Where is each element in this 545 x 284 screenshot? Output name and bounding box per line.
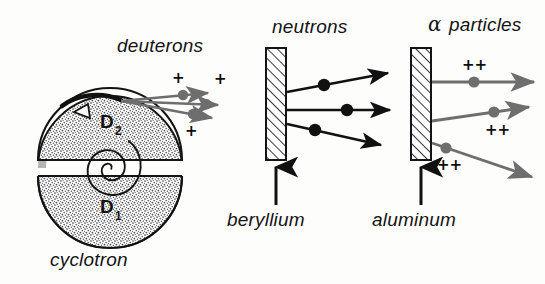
aluminum-label: aluminum (372, 209, 456, 230)
deuteron-beam-1 (121, 93, 208, 101)
dee-upper[interactable] (38, 96, 182, 168)
cyclotron-assembly: D 2 D 1 cyclotron (38, 88, 182, 270)
neutron-beam-3 (287, 124, 381, 145)
neutron-beam-group: neutrons (272, 16, 390, 145)
neutron-particle-2 (341, 104, 353, 116)
dee-upper-letter: D (100, 111, 114, 132)
deuteron-charge-2: + (214, 70, 227, 88)
alpha-particle-2 (488, 106, 499, 117)
deuterons-label: deuterons (117, 35, 204, 56)
cyclotron-label: cyclotron (50, 249, 128, 270)
alpha-symbol: α (428, 12, 442, 36)
alpha-beam-group: ++ ++ ++ α particles (428, 12, 534, 177)
diagram-canvas: D 2 D 1 cyclotron + + + deuterons (0, 0, 545, 284)
alpha-charge-3: ++ (437, 156, 462, 174)
alpha-particles-label: α particles (428, 12, 522, 36)
deuteron-particle-1 (178, 90, 188, 100)
aluminum-target-group: aluminum (372, 48, 456, 230)
deuteron-particle-2 (201, 99, 211, 109)
deuteron-charge-1: + (172, 69, 185, 87)
neutron-particle-3 (309, 124, 321, 136)
neutron-beam-1 (287, 73, 388, 92)
neutrons-label: neutrons (272, 16, 348, 37)
dee-upper-subscript: 2 (115, 124, 122, 138)
beryllium-target-group: beryllium (227, 48, 305, 230)
deuteron-charge-3: + (185, 122, 198, 140)
dee-lower-subscript: 1 (115, 209, 122, 223)
alpha-particles-word: particles (448, 14, 522, 35)
alpha-charge-1: ++ (462, 56, 487, 74)
alpha-particle-3 (440, 142, 451, 153)
alpha-charge-2: ++ (485, 121, 510, 139)
deuteron-particle-3 (188, 109, 198, 119)
dee-lower-letter: D (100, 196, 114, 217)
alpha-beam-2 (432, 107, 529, 121)
alpha-particle-1 (468, 76, 479, 87)
neutron-particle-1 (318, 79, 330, 91)
aluminum-target[interactable] (411, 48, 431, 160)
beryllium-target[interactable] (266, 48, 286, 160)
beryllium-label: beryllium (227, 209, 305, 230)
cyclotron-diagram: D 2 D 1 cyclotron + + + deuterons (0, 0, 545, 284)
